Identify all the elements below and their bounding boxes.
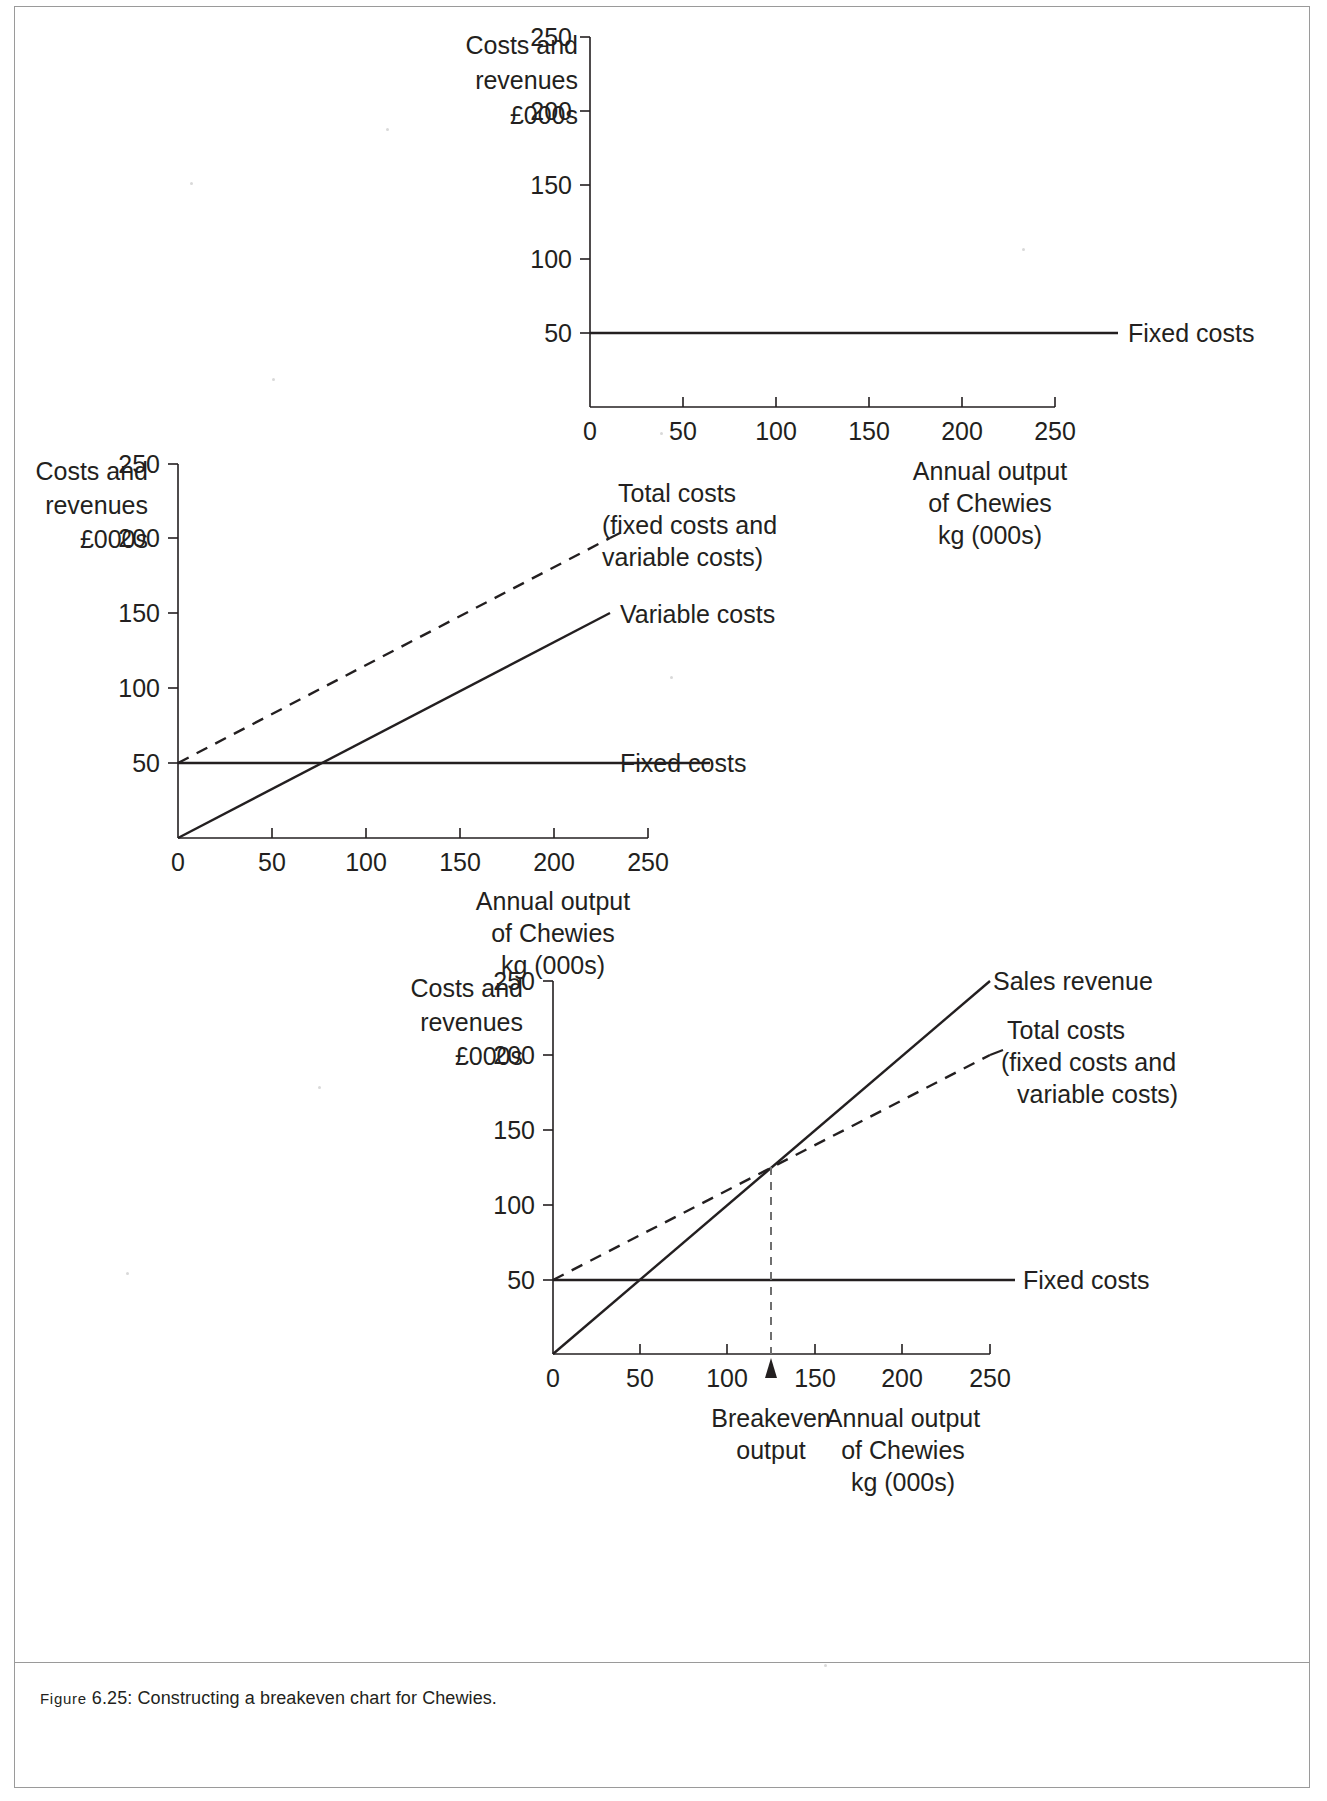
scan-speck: [660, 432, 663, 435]
panel-2-xlabel-150: 150: [439, 848, 481, 876]
panel-2-total-costs-label-line3: variable costs): [602, 543, 763, 571]
caption-divider: [15, 1662, 1309, 1663]
panel-3-ylabel-50: 50: [507, 1266, 535, 1294]
panel-3-breakeven-arrow-icon: [765, 1358, 777, 1378]
panel-3-total-costs-label-line1: Total costs: [1007, 1016, 1125, 1044]
panel-1-xlabel-0: 0: [583, 417, 597, 445]
panel-1-x-axis-title-line2: of Chewies: [928, 489, 1052, 517]
panel-1-ylabel-150: 150: [530, 171, 572, 199]
panel-1-svg: Costs and revenues £000s 250 200 150 100…: [430, 12, 1190, 522]
panel-3-breakeven-label-line2: output: [736, 1436, 806, 1464]
panel-3-xlabel-150: 150: [794, 1364, 836, 1392]
panel-2-x-axis-title-line1: Annual output: [476, 887, 630, 915]
panel-2-total-costs-label-line2: (fixed costs and: [602, 511, 777, 539]
scan-speck: [318, 1086, 321, 1089]
figure-caption-text: Constructing a breakeven chart for Chewi…: [137, 1688, 496, 1708]
panel-3-x-axis-title-line2: of Chewies: [841, 1436, 965, 1464]
panel-2-ylabel-200: 200: [118, 524, 160, 552]
panel-1-ylabel-50: 50: [544, 319, 572, 347]
panel-2-ylabel-50: 50: [132, 749, 160, 777]
panel-3-breakeven-label-line1: Breakeven: [711, 1404, 831, 1432]
chart-panel-3: Costs and revenues £000s 250 200 150 100…: [395, 960, 1185, 1520]
panel-3-x-axis-title-line1: Annual output: [826, 1404, 980, 1432]
panel-1-xlabel-200: 200: [941, 417, 983, 445]
panel-3-sales-revenue-label: Sales revenue: [993, 967, 1153, 995]
figure-caption-number: 6.25:: [92, 1688, 133, 1708]
scan-speck: [386, 128, 389, 131]
panel-2-variable-costs-line: [178, 613, 610, 838]
panel-3-x-axis-title-line3: kg (000s): [851, 1468, 955, 1496]
panel-3-ylabel-200: 200: [493, 1041, 535, 1069]
scan-speck: [272, 378, 275, 381]
scan-speck: [670, 676, 673, 679]
panel-2-svg: Costs and revenues £000s 250 200 150 100…: [20, 448, 800, 958]
panel-3-total-costs-label-line3: variable costs): [1017, 1080, 1178, 1108]
panel-2-xlabel-200: 200: [533, 848, 575, 876]
scan-speck: [824, 1664, 827, 1667]
panel-1-fixed-costs-label: Fixed costs: [1128, 319, 1254, 347]
panel-1-xlabel-50: 50: [669, 417, 697, 445]
panel-2-xlabel-0: 0: [171, 848, 185, 876]
panel-3-svg: Costs and revenues £000s 250 200 150 100…: [395, 960, 1185, 1520]
panel-2-ylabel-100: 100: [118, 674, 160, 702]
panel-2-xlabel-50: 50: [258, 848, 286, 876]
panel-3-xlabel-50: 50: [626, 1364, 654, 1392]
panel-3-y-axis-title-line2: revenues: [420, 1008, 523, 1036]
panel-2-variable-costs-label: Variable costs: [620, 600, 775, 628]
panel-3-xlabel-250: 250: [969, 1364, 1011, 1392]
panel-3-ylabel-100: 100: [493, 1191, 535, 1219]
panel-2-xlabel-100: 100: [345, 848, 387, 876]
panel-1-xlabel-150: 150: [848, 417, 890, 445]
panel-2-total-costs-line: [178, 538, 610, 763]
panel-1-xlabel-100: 100: [755, 417, 797, 445]
panel-3-ylabel-250: 250: [493, 967, 535, 995]
panel-3-fixed-costs-label: Fixed costs: [1023, 1266, 1149, 1294]
panel-3-xlabel-100: 100: [706, 1364, 748, 1392]
chart-panel-1: Costs and revenues £000s 250 200 150 100…: [430, 12, 1190, 522]
panel-2-xlabel-250: 250: [627, 848, 669, 876]
panel-1-ylabel-100: 100: [530, 245, 572, 273]
panel-1-x-axis-title-line3: kg (000s): [938, 521, 1042, 549]
figure-caption: Figure 6.25: Constructing a breakeven ch…: [40, 1688, 497, 1709]
panel-1-y-axis-title-line2: revenues: [475, 66, 578, 94]
panel-3-xlabel-0: 0: [546, 1364, 560, 1392]
chart-panel-2: Costs and revenues £000s 250 200 150 100…: [20, 448, 800, 958]
panel-1-xlabel-250: 250: [1034, 417, 1076, 445]
panel-1-x-axis-title-line1: Annual output: [913, 457, 1067, 485]
panel-3-total-costs-label-line2: (fixed costs and: [1001, 1048, 1176, 1076]
scan-speck: [126, 1272, 129, 1275]
panel-2-total-costs-label-line1: Total costs: [618, 479, 736, 507]
panel-2-x-axis-title-line2: of Chewies: [491, 919, 615, 947]
figure-caption-prefix: Figure: [40, 1690, 87, 1707]
panel-2-ylabel-150: 150: [118, 599, 160, 627]
scan-speck: [190, 182, 193, 185]
panel-2-fixed-costs-label: Fixed costs: [620, 749, 746, 777]
panel-2-y-axis-title-line2: revenues: [45, 491, 148, 519]
panel-3-xlabel-200: 200: [881, 1364, 923, 1392]
panel-3-ylabel-150: 150: [493, 1116, 535, 1144]
scan-speck: [1022, 248, 1025, 251]
panel-1-ylabel-250: 250: [530, 23, 572, 51]
panel-1-ylabel-200: 200: [530, 97, 572, 125]
panel-2-ylabel-250: 250: [118, 450, 160, 478]
